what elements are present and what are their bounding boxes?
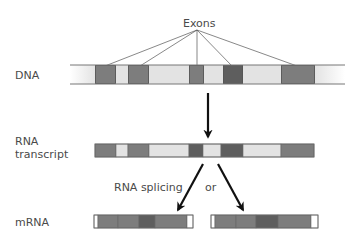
- gene-splicing-diagram: [0, 0, 354, 242]
- dna-exon: [189, 65, 204, 84]
- mrna-2-cap: [311, 215, 318, 228]
- exon-pointer-lines: [105, 30, 297, 66]
- mrna-1-exon: [118, 215, 139, 228]
- rna-transcript-strand: [95, 144, 314, 157]
- mrna-2-exon: [215, 215, 236, 228]
- dna-exon: [281, 65, 315, 84]
- rna-transcript-label-line1: RNA: [15, 135, 38, 148]
- or-label: or: [205, 181, 216, 194]
- rna-intron: [203, 144, 221, 157]
- rna-intron: [243, 144, 281, 157]
- mrna-2-exon_dark: [256, 215, 278, 228]
- mrna-label: mRNA: [15, 216, 49, 229]
- rna-exon_dark: [221, 144, 243, 157]
- rna-splicing-label: RNA splicing: [114, 181, 183, 194]
- rna-intron: [149, 144, 189, 157]
- dna-strand: [70, 65, 345, 84]
- mrna-strands: [94, 215, 318, 228]
- dna-label: DNA: [15, 69, 39, 82]
- mrna-1-exon: [155, 215, 187, 228]
- rna-exon_dark: [189, 144, 203, 157]
- rna-intron: [116, 144, 128, 157]
- dna-exon: [223, 65, 243, 84]
- exons-label: Exons: [183, 17, 216, 30]
- rna-transcript-label-line2: transcript: [15, 148, 68, 161]
- rna-exon: [128, 144, 149, 157]
- mrna-1-cap: [94, 215, 98, 228]
- mrna-1-exon_dark: [139, 215, 155, 228]
- splice-right-arrow-icon: [218, 164, 243, 210]
- dna-intron: [243, 65, 281, 84]
- mrna-1-exon: [98, 215, 118, 228]
- dna-intron: [204, 65, 223, 84]
- dna-intron: [70, 65, 95, 84]
- dna-exon: [95, 65, 116, 84]
- dna-intron: [116, 65, 128, 84]
- rna-exon: [281, 144, 314, 157]
- mrna-2-exon: [278, 215, 311, 228]
- dna-exon: [128, 65, 149, 84]
- rna-exon: [95, 144, 116, 157]
- mrna-2-exon: [236, 215, 256, 228]
- mrna-2-cap: [211, 215, 215, 228]
- mrna-1-cap: [187, 215, 193, 228]
- dna-intron: [315, 65, 345, 84]
- dna-intron: [149, 65, 189, 84]
